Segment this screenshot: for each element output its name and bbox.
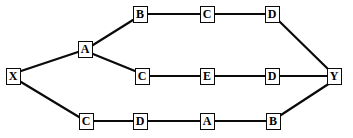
node-A1[interactable]: A (78, 41, 93, 58)
node-label-X: X (9, 70, 18, 82)
node-B1[interactable]: B (133, 6, 148, 23)
edge-A1-B1 (93, 20, 133, 45)
node-A3[interactable]: A (200, 113, 215, 130)
node-label-D2: D (268, 70, 277, 82)
graph-diagram: XABCDCEDCDABY (0, 0, 353, 138)
node-E2[interactable]: E (200, 68, 215, 85)
node-D1[interactable]: D (265, 6, 280, 23)
node-label-B3: B (269, 115, 277, 127)
node-C2[interactable]: C (135, 68, 150, 85)
node-label-C2: C (138, 70, 147, 82)
node-label-Y: Y (330, 70, 339, 82)
node-label-A3: A (203, 115, 212, 127)
edge-layer (0, 0, 353, 138)
node-label-D1: D (268, 8, 277, 20)
node-label-C1: C (203, 8, 212, 20)
edge-X-A1 (21, 52, 78, 71)
node-B3[interactable]: B (266, 113, 281, 130)
edge-B3-Y (281, 83, 330, 115)
node-C3[interactable]: C (79, 113, 94, 130)
node-label-D3: D (136, 115, 145, 127)
edge-D1-Y (279, 21, 329, 70)
edges-group (21, 14, 330, 121)
node-X[interactable]: X (6, 68, 21, 85)
node-label-B1: B (136, 8, 144, 20)
edge-X-C3 (21, 82, 79, 117)
node-C1[interactable]: C (200, 6, 215, 23)
node-label-C3: C (82, 115, 91, 127)
node-label-E2: E (203, 70, 211, 82)
node-label-A1: A (81, 43, 90, 55)
node-Y[interactable]: Y (327, 68, 342, 85)
edge-A1-C2 (93, 54, 135, 71)
node-D2[interactable]: D (265, 68, 280, 85)
node-D3[interactable]: D (133, 113, 148, 130)
